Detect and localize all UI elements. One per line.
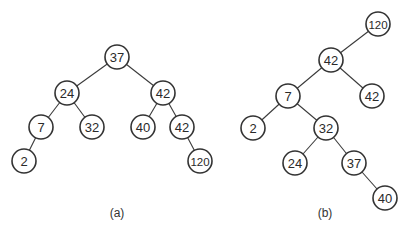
- node-label: 24: [60, 86, 74, 101]
- tree-node: 32: [314, 116, 338, 140]
- node-label: 42: [175, 120, 189, 135]
- tree-b-edges: [253, 24, 385, 198]
- node-label: 42: [324, 53, 338, 68]
- caption-a: (a): [110, 206, 125, 220]
- tree-node: 37: [105, 45, 129, 69]
- tree-a-nodes: 37244273240422120: [12, 45, 212, 173]
- node-label: 40: [378, 191, 392, 206]
- tree-node: 120: [366, 12, 390, 36]
- tree-node: 7: [276, 84, 300, 108]
- tree-b: 12042742232243740 (b): [241, 12, 397, 220]
- node-label: 24: [288, 156, 302, 171]
- tree-node: 42: [170, 115, 194, 139]
- node-label: 7: [37, 120, 44, 135]
- tree-node: 42: [360, 84, 384, 108]
- tree-node: 2: [12, 149, 36, 173]
- node-label: 120: [368, 19, 387, 31]
- tree-node: 7: [29, 115, 53, 139]
- node-label: 37: [110, 50, 124, 65]
- node-label: 7: [284, 89, 291, 104]
- tree-node: 37: [342, 151, 366, 175]
- node-label: 2: [20, 154, 27, 169]
- tree-diagram: 37244273240422120 (a) 12042742232243740 …: [0, 0, 406, 239]
- node-label: 42: [156, 86, 170, 101]
- tree-node: 40: [131, 115, 155, 139]
- tree-node: 32: [80, 115, 104, 139]
- tree-node: 42: [151, 81, 175, 105]
- tree-node: 24: [55, 81, 79, 105]
- tree-node: 40: [373, 186, 397, 210]
- tree-node: 2: [241, 116, 265, 140]
- tree-b-nodes: 12042742232243740: [241, 12, 397, 210]
- tree-node: 120: [188, 149, 212, 173]
- node-label: 40: [136, 120, 150, 135]
- node-label: 120: [190, 156, 209, 168]
- caption-b: (b): [318, 206, 333, 220]
- tree-a-edges: [24, 57, 200, 161]
- node-label: 2: [249, 121, 256, 136]
- tree-a: 37244273240422120 (a): [12, 45, 212, 220]
- node-label: 32: [85, 120, 99, 135]
- tree-node: 42: [319, 48, 343, 72]
- tree-node: 24: [283, 151, 307, 175]
- node-label: 32: [319, 121, 333, 136]
- node-label: 42: [365, 89, 379, 104]
- node-label: 37: [347, 156, 361, 171]
